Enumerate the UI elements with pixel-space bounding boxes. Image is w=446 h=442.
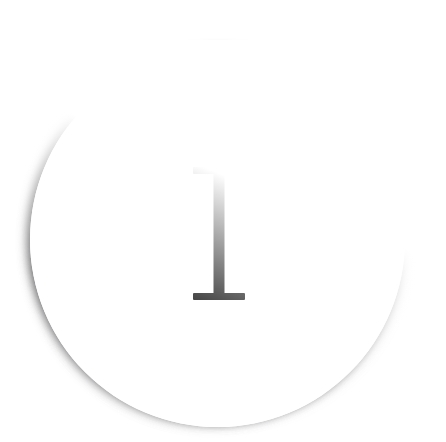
circular-badge[interactable]: [30, 52, 405, 427]
badge-face: [30, 52, 405, 427]
